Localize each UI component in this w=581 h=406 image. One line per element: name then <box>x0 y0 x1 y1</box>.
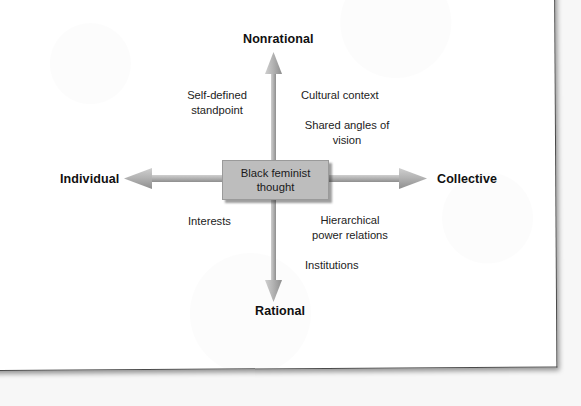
arrow-down-rational <box>265 196 282 302</box>
axis-arrows <box>0 0 581 406</box>
arrow-up-nonrational <box>265 52 282 164</box>
arrow-right-collective <box>325 168 427 189</box>
center-concept-label: Black feminist thought <box>241 166 311 194</box>
diagram-figure: Black feminist thought Nonrational Ratio… <box>0 0 581 406</box>
arrow-left-individual <box>124 168 225 189</box>
scanned-page-canvas: Black feminist thought Nonrational Ratio… <box>0 0 581 406</box>
center-concept-box: Black feminist thought <box>222 160 329 200</box>
